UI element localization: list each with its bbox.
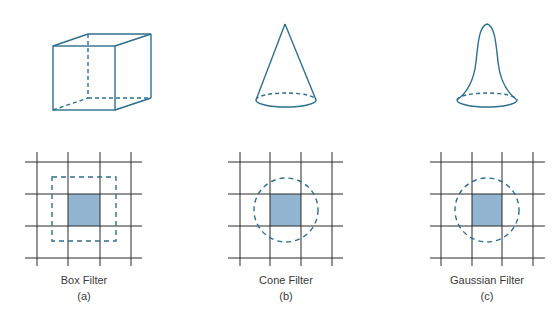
- gaussian-filter-grid: [430, 152, 545, 266]
- panel-b-title: Cone Filter: [216, 274, 356, 286]
- center-pixel: [472, 194, 502, 226]
- panel-a-sublabel: (a): [14, 290, 154, 302]
- cone-filter-grid: [228, 152, 343, 266]
- center-pixel: [68, 194, 100, 226]
- box-filter-grid: [25, 152, 142, 266]
- panel-c-sublabel: (c): [417, 290, 557, 302]
- cone-filter-shape: [256, 24, 316, 107]
- box-filter-shape: [53, 34, 151, 110]
- panel-c-title: Gaussian Filter: [417, 274, 557, 286]
- center-pixel: [270, 194, 301, 226]
- gaussian-filter-shape: [457, 24, 517, 107]
- panel-a-title: Box Filter: [14, 274, 154, 286]
- filter-diagram: [0, 0, 559, 313]
- panel-b-sublabel: (b): [216, 290, 356, 302]
